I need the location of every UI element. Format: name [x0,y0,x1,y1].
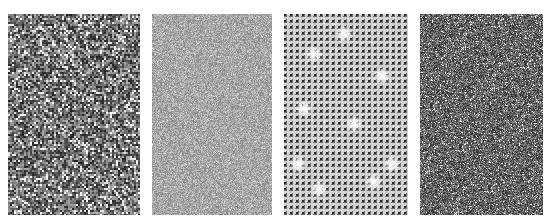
noise-canvas [420,14,543,215]
noise-panel-dark [420,14,543,215]
dot-grid-panel [284,14,408,215]
noise-canvas [8,14,140,215]
noise-panel-coarse [8,14,140,215]
dot-grid-canvas [284,14,408,215]
noise-panel-light [152,14,272,215]
noise-canvas [152,14,272,215]
